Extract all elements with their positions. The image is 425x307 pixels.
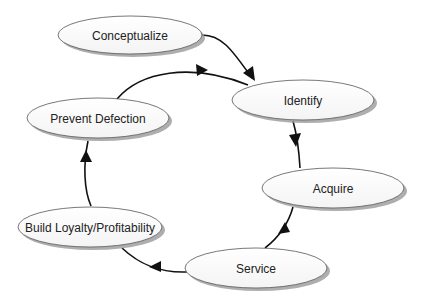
- node-prevent-defection[interactable]: Prevent Defection: [27, 98, 172, 141]
- node-label: Acquire: [313, 182, 354, 196]
- edge-prevent-defection-identify: [117, 72, 248, 99]
- customer-lifecycle-diagram: Conceptualize Identify Acquire Service B…: [0, 0, 425, 307]
- node-label: Prevent Defection: [50, 112, 145, 126]
- node-build-loyalty[interactable]: Build Loyalty/Profitability: [18, 207, 165, 250]
- arrowhead-icon: [289, 133, 301, 147]
- edge-conceptualize-identify: [202, 35, 252, 78]
- edge-acquire-service: [265, 207, 293, 248]
- node-label: Conceptualize: [92, 29, 168, 43]
- arrowhead-icon: [80, 150, 92, 162]
- node-label: Service: [236, 262, 276, 276]
- node-label: Build Loyalty/Profitability: [25, 221, 155, 235]
- node-service[interactable]: Service: [185, 248, 330, 291]
- arrowhead-icon: [149, 261, 161, 272]
- node-identify[interactable]: Identify: [232, 80, 377, 123]
- node-label: Identify: [284, 94, 323, 108]
- node-acquire[interactable]: Acquire: [262, 168, 407, 211]
- node-conceptualize[interactable]: Conceptualize: [58, 16, 205, 57]
- arrowhead-icon: [278, 222, 290, 234]
